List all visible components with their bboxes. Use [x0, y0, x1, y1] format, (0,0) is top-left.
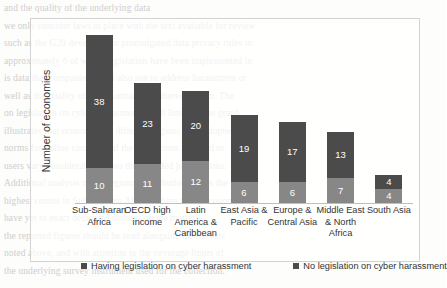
- x-axis-line: [75, 203, 413, 204]
- x-axis-label-line: America &: [169, 217, 223, 229]
- bar-segment-having-legislation[interactable]: 7: [327, 178, 354, 203]
- y-axis-title: Number of economies: [39, 51, 53, 191]
- x-axis-label-line: Pacific: [217, 217, 271, 229]
- x-axis-label: Sub-SaharanAfrica: [72, 205, 126, 228]
- bar-group[interactable]: 2311: [134, 83, 161, 203]
- bar-group[interactable]: 137: [327, 132, 354, 203]
- legend-label: No legislation on cyber harassment: [303, 261, 447, 271]
- bar-segment-having-legislation[interactable]: 4: [375, 189, 402, 203]
- x-axis-label-line: Sub-Saharan: [72, 205, 126, 217]
- bar-segment-having-legislation[interactable]: 10: [86, 168, 113, 203]
- legend-swatch-icon: [293, 263, 299, 269]
- x-axis-label-line: Europe &: [265, 205, 319, 217]
- x-axis-label-line: South Asia: [362, 205, 416, 217]
- x-axis-label-line: & North: [313, 217, 367, 229]
- bar-segment-no-legislation[interactable]: 4: [375, 175, 402, 189]
- bar-segment-no-legislation[interactable]: 19: [231, 115, 258, 182]
- legend-item[interactable]: Having legislation on cyber harassment: [81, 261, 251, 271]
- x-axis-label: Middle East& NorthAfrica: [313, 205, 367, 240]
- background-text-line: and the quality of the underlying data: [0, 4, 445, 13]
- bar-segment-no-legislation[interactable]: 23: [134, 83, 161, 164]
- bar-segment-having-legislation[interactable]: 12: [182, 161, 209, 203]
- x-axis-label-line: Latin: [169, 205, 223, 217]
- legend-swatch-icon: [81, 263, 87, 269]
- x-axis-label-line: Caribbean: [169, 228, 223, 240]
- x-axis-label: LatinAmerica &Caribbean: [169, 205, 223, 240]
- x-axis-label-line: Africa: [72, 217, 126, 229]
- x-axis-label: Europe &Central Asia: [265, 205, 319, 228]
- legend-label: Having legislation on cyber harassment: [91, 261, 251, 271]
- bar-group[interactable]: 2012: [182, 91, 209, 203]
- bar-group[interactable]: 196: [231, 115, 258, 203]
- bar-segment-having-legislation[interactable]: 11: [134, 164, 161, 203]
- x-axis-category-labels: Sub-SaharanAfricaOECD highincomeLatinAme…: [75, 205, 413, 257]
- bar-group[interactable]: 176: [279, 122, 306, 203]
- x-axis-label: OECD highincome: [120, 205, 174, 228]
- plot-area: 38102311201219617613744: [75, 35, 413, 204]
- bar-segment-no-legislation[interactable]: 38: [86, 35, 113, 168]
- x-axis-label: South Asia: [362, 205, 416, 217]
- chart-container: Number of economies 38102311201219617613…: [30, 18, 420, 262]
- chart-legend: Having legislation on cyber harassmentNo…: [75, 258, 415, 274]
- y-axis-title-label: Number of economies: [40, 70, 52, 173]
- legend-item[interactable]: No legislation on cyber harassment: [293, 261, 447, 271]
- x-axis-label-line: Middle East: [313, 205, 367, 217]
- bar-segment-no-legislation[interactable]: 20: [182, 91, 209, 161]
- bar-segment-no-legislation[interactable]: 13: [327, 132, 354, 178]
- bar-group[interactable]: 3810: [86, 35, 113, 203]
- x-axis-label-line: income: [120, 217, 174, 229]
- x-axis-label-line: East Asia &: [217, 205, 271, 217]
- x-axis-label-line: Central Asia: [265, 217, 319, 229]
- bar-group[interactable]: 44: [375, 175, 402, 203]
- x-axis-label-line: Africa: [313, 228, 367, 240]
- bar-segment-having-legislation[interactable]: 6: [279, 182, 306, 203]
- x-axis-label: East Asia &Pacific: [217, 205, 271, 228]
- bar-segment-having-legislation[interactable]: 6: [231, 182, 258, 203]
- x-axis-label-line: OECD high: [120, 205, 174, 217]
- bar-segment-no-legislation[interactable]: 17: [279, 122, 306, 182]
